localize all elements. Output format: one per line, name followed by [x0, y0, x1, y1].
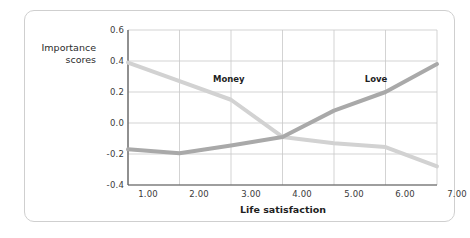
- series-label-love: Love: [365, 74, 388, 84]
- series-label-money: Money: [213, 74, 245, 84]
- plot-area: [0, 0, 470, 238]
- gridlines: [128, 30, 437, 185]
- chart-figure: Importance scores Life satisfaction 0.6 …: [0, 0, 470, 238]
